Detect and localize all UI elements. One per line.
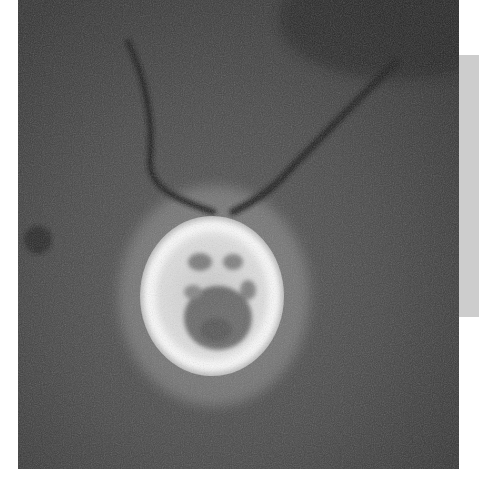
micrograph-image: [18, 0, 459, 469]
side-gray-panel: [459, 55, 479, 317]
micrograph-drawing: [18, 0, 459, 469]
grain-overlay: [18, 0, 459, 469]
